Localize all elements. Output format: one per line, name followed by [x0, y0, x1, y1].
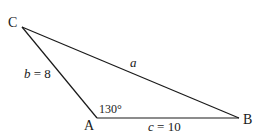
- side-a-line: [22, 27, 239, 118]
- vertex-c-label: C: [8, 15, 17, 30]
- side-b-label: b = 8: [24, 66, 51, 81]
- side-c-value: 10: [168, 119, 181, 134]
- side-b-value: 8: [44, 66, 51, 81]
- side-a-label: a: [130, 55, 137, 70]
- triangle-diagram: C A B b = 8 a c = 10 130°: [0, 0, 260, 139]
- side-c-eq: =: [154, 119, 168, 134]
- side-b-eq: =: [31, 66, 45, 81]
- side-c-label: c = 10: [148, 119, 181, 134]
- vertex-b-label: B: [243, 112, 252, 127]
- angle-a-label: 130°: [99, 102, 122, 116]
- vertex-a-label: A: [84, 118, 95, 133]
